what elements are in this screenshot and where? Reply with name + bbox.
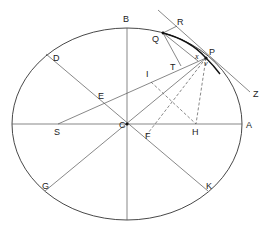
tangent-line: [158, 10, 250, 92]
label-r: R: [177, 17, 184, 27]
label-d: D: [53, 53, 60, 63]
line-s-p: [58, 58, 206, 124]
dashed-p-f: [145, 58, 206, 137]
label-t: T: [170, 62, 176, 72]
label-h: H: [192, 127, 199, 137]
label-c: C: [119, 120, 126, 130]
label-e: E: [98, 91, 104, 101]
label-a: A: [246, 120, 252, 130]
line-q-r: [163, 26, 177, 33]
dashed-i-h: [151, 82, 196, 124]
label-s: S: [54, 127, 60, 137]
label-i: I: [146, 69, 149, 79]
label-b: B: [123, 14, 129, 24]
point-q: [162, 32, 165, 35]
label-z: Z: [253, 89, 259, 99]
point-c: [125, 122, 128, 125]
label-p: P: [209, 47, 215, 57]
ellipse-diagram: B A C D E S F H I G K P Q R T Z x v: [0, 0, 273, 233]
label-q: Q: [152, 34, 159, 44]
label-g: G: [42, 181, 49, 191]
label-f: F: [145, 131, 151, 141]
label-v: v: [204, 59, 208, 68]
label-k: K: [206, 181, 212, 191]
label-x: x: [194, 52, 199, 61]
